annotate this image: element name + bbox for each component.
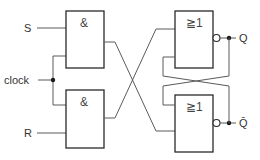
input-label-r: R — [24, 127, 32, 139]
nor-gate-top-symbol: ≧1 — [186, 16, 203, 30]
inverter-bubble-bottom — [213, 120, 220, 127]
inverter-bubble-top — [213, 35, 220, 42]
output-label-q: Q — [239, 32, 248, 44]
and-gate-bottom: & — [66, 90, 104, 148]
flip-flop-diagram: S clock R & & ≧1 ≧1 Q Q̄ — [0, 0, 260, 160]
nor-gate-bottom: ≧1 — [175, 95, 220, 152]
and-gate-bottom-symbol: & — [80, 95, 88, 109]
nor-gate-top: ≧1 — [175, 11, 220, 68]
and-gate-top-symbol: & — [80, 16, 88, 30]
and-gate-top: & — [66, 11, 104, 68]
output-label-qbar: Q̄ — [239, 117, 248, 129]
clock-junction-dot — [51, 78, 55, 82]
input-label-clock: clock — [4, 74, 30, 86]
input-label-s: S — [24, 22, 31, 34]
nor-gate-bottom-symbol: ≧1 — [186, 100, 203, 114]
